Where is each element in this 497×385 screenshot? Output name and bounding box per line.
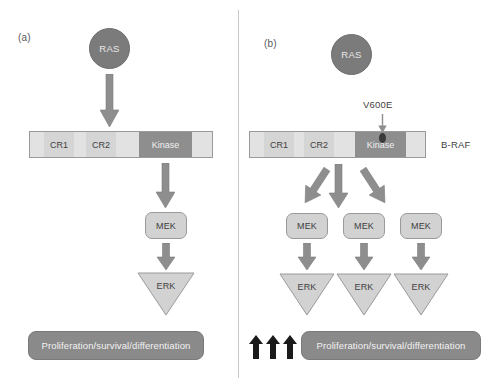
panel-b-seg-gap-1 (294, 132, 304, 157)
panel-a-seg-cr1: CR1 (44, 132, 74, 157)
panel-b-ras-label: RAS (341, 49, 361, 60)
panel-a-seg-pad-right (192, 132, 212, 157)
panel-b-mek-node-1: MEK (286, 213, 328, 239)
panel-b-mek-label-1: MEK (297, 221, 317, 231)
panel-b-arrow-mek-to-erk-1 (298, 243, 316, 270)
panel-a-seg-gap-2 (116, 132, 139, 157)
panel-a-seg-cr2: CR2 (86, 132, 116, 157)
panel-b-erk-node-1: ERK (279, 273, 335, 316)
panel-b-erk-node-2: ERK (336, 273, 392, 316)
figure-canvas: (a) RAS CR1 CR2 Kinase MEK (0, 0, 497, 385)
panel-a-label: (a) (18, 32, 31, 43)
panel-a-mek-label: MEK (156, 221, 176, 231)
panel-b-arrow-raf-to-mek-left (299, 164, 333, 208)
panel-a-seg-kinase: Kinase (139, 132, 192, 157)
panel-a-seg-pad-left (30, 132, 44, 157)
panel-a-seg-gap-1 (74, 132, 86, 157)
panel-a-outcome-bar: Proliferation/survival/differentiation (28, 331, 204, 360)
panel-b-upregulation-arrows (249, 335, 297, 359)
panel-b-mutation-label: V600E (363, 99, 393, 110)
panel-a-arrow-raf-to-mek (156, 163, 175, 208)
panel-a-erk-node: ERK (137, 272, 195, 316)
panel-a-arrow-mek-to-erk (157, 243, 175, 270)
panel-a-arrow-ras-to-raf (100, 74, 119, 127)
panel-b-seg-pad-right (406, 132, 425, 157)
panel-b-arrow-mek-to-erk-2 (355, 243, 373, 270)
panel-b-protein-name-label: B-RAF (441, 139, 471, 150)
panel-a-protein-bar: CR1 CR2 Kinase (29, 131, 213, 158)
panel-a-ras-node: RAS (89, 28, 130, 69)
up-arrow-icon-3 (283, 335, 297, 359)
panel-b-mutation-dot (379, 133, 386, 143)
panel-divider (238, 10, 239, 378)
panel-b-mek-node-3: MEK (400, 213, 442, 239)
panel-b-arrow-raf-to-mek-right (357, 164, 391, 208)
panel-b-outcome-label: Proliferation/survival/differentiation (317, 340, 466, 351)
panel-b-outcome-bar: Proliferation/survival/differentiation (301, 331, 481, 360)
panel-b-seg-gap-2 (334, 132, 355, 157)
panel-b-erk-node-3: ERK (393, 273, 449, 316)
panel-b-mek-label-3: MEK (411, 221, 431, 231)
panel-b-mek-label-2: MEK (354, 221, 374, 231)
up-arrow-icon-1 (249, 335, 263, 359)
panel-a-mek-node: MEK (145, 212, 187, 239)
panel-b-label: (b) (264, 38, 277, 49)
panel-b-seg-cr2: CR2 (304, 132, 334, 157)
panel-a-ras-label: RAS (99, 43, 119, 54)
panel-b-protein-bar: CR1 CR2 Kinase (249, 131, 426, 158)
panel-a-outcome-label: Proliferation/survival/differentiation (42, 340, 191, 351)
panel-b-arrow-raf-to-mek-center (329, 164, 348, 208)
panel-b-ras-node: RAS (331, 34, 372, 75)
panel-b-arrow-mek-to-erk-3 (412, 243, 430, 270)
panel-b-seg-cr1: CR1 (264, 132, 294, 157)
panel-b-mek-node-2: MEK (343, 213, 385, 239)
panel-b-seg-pad-left (250, 132, 264, 157)
up-arrow-icon-2 (266, 335, 280, 359)
